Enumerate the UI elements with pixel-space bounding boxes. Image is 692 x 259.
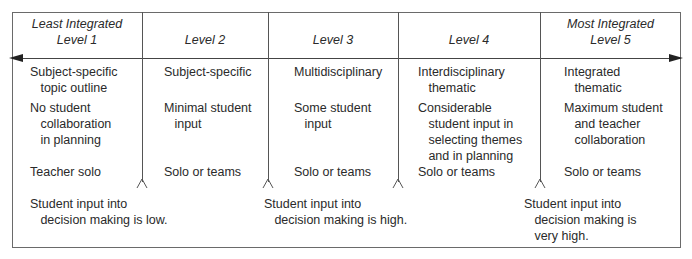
note-low-input: Student input into decision making is lo… <box>30 196 168 228</box>
level-2-teaching: Solo or teams <box>164 164 241 180</box>
note-very-high-input: Student input into decision making is ve… <box>524 196 637 244</box>
level-5-teaching: Solo or teams <box>564 164 641 180</box>
caret-up-icon <box>262 178 274 188</box>
level-3-input: Some student input <box>294 100 371 132</box>
level-4-content: Interdisciplinary thematic <box>418 64 505 96</box>
level-2-header-label: Level 2 <box>142 32 268 48</box>
level-2-header: Level 2 <box>142 32 268 48</box>
level-1-header-title: Least Integrated <box>12 16 142 32</box>
level-5-header-title: Most Integrated <box>540 16 681 32</box>
level-1-header-label: Level 1 <box>12 32 142 48</box>
level-5-content: Integrated thematic <box>564 64 622 96</box>
level-4-teaching: Solo or teams <box>418 164 495 180</box>
level-3-header-label: Level 3 <box>268 32 398 48</box>
level-4-input: Considerable student input in selecting … <box>418 100 522 164</box>
level-4-header-label: Level 4 <box>398 32 540 48</box>
integration-continuum-axis <box>12 58 681 59</box>
level-2-content: Subject-specific <box>164 64 252 80</box>
note-high-input: Student input into decision making is hi… <box>264 196 407 228</box>
level-3-content: Multidisciplinary <box>294 64 382 80</box>
level-1-header: Least Integrated Level 1 <box>12 16 142 48</box>
level-3-header: Level 3 <box>268 32 398 48</box>
arrow-right-icon <box>669 54 683 62</box>
level-5-header: Most Integrated Level 5 <box>540 16 681 48</box>
arrow-left-icon <box>9 54 23 62</box>
level-4-header: Level 4 <box>398 32 540 48</box>
level-3-teaching: Solo or teams <box>294 164 371 180</box>
level-5-input: Maximum student and teacher collaboratio… <box>564 100 663 148</box>
level-1-input: No student collaboration in planning <box>30 100 111 148</box>
caret-up-icon <box>534 178 546 188</box>
caret-up-icon <box>136 178 148 188</box>
level-1-content: Subject-specific topic outline <box>30 64 118 96</box>
level-1-teaching: Teacher solo <box>30 164 101 180</box>
level-5-header-label: Level 5 <box>540 32 681 48</box>
caret-up-icon <box>392 178 404 188</box>
level-2-input: Minimal student input <box>164 100 252 132</box>
